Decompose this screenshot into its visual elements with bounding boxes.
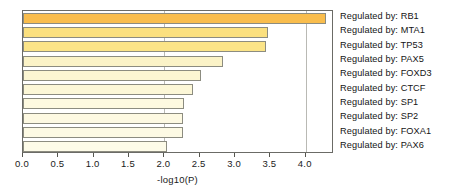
category-label: Regulated by: RB1 xyxy=(340,11,419,22)
category-label: Regulated by: CTCF xyxy=(340,83,426,94)
x-axis-tick xyxy=(93,153,94,157)
bar[interactable] xyxy=(23,141,167,152)
x-axis-tick-label: 3.5 xyxy=(262,158,276,169)
x-axis-tick xyxy=(305,153,306,157)
x-axis-tick xyxy=(128,153,129,157)
x-axis-tick xyxy=(163,153,164,157)
x-axis-tick xyxy=(22,153,23,157)
plot-area xyxy=(22,10,333,153)
bar[interactable] xyxy=(23,127,183,138)
x-axis-tick-label: 1.0 xyxy=(86,158,100,169)
x-axis-tick xyxy=(199,153,200,157)
bars-layer xyxy=(23,11,332,152)
category-label-column: Regulated by: RB1Regulated by: MTA1Regul… xyxy=(340,10,456,153)
bar[interactable] xyxy=(23,70,201,81)
bar-row xyxy=(23,84,334,95)
category-label: Regulated by: PAX5 xyxy=(340,54,424,65)
bar-row xyxy=(23,98,334,109)
bar[interactable] xyxy=(23,98,184,109)
x-axis-title: -log10(P) xyxy=(22,174,333,185)
category-label: Regulated by: TP53 xyxy=(340,40,423,51)
category-label: Regulated by: SP1 xyxy=(340,97,418,108)
x-axis-tick-label: 4.0 xyxy=(298,158,312,169)
bar[interactable] xyxy=(23,56,223,67)
bar-row xyxy=(23,113,334,124)
category-label: Regulated by: SP2 xyxy=(340,111,418,122)
category-label: Regulated by: FOXD3 xyxy=(340,68,432,79)
bar[interactable] xyxy=(23,84,193,95)
bar[interactable] xyxy=(23,13,326,24)
bar-row xyxy=(23,13,334,24)
x-axis-tick xyxy=(234,153,235,157)
x-axis-tick-label: 1.5 xyxy=(121,158,135,169)
bar-row xyxy=(23,127,334,138)
x-axis-tick-label: 3.0 xyxy=(227,158,241,169)
bar-chart: 0.00.51.01.52.02.53.03.54.0 -log10(P) Re… xyxy=(0,0,456,193)
category-label: Regulated by: PAX6 xyxy=(340,140,424,151)
x-axis-tick xyxy=(57,153,58,157)
bar-row xyxy=(23,70,334,81)
bar-row xyxy=(23,56,334,67)
bar[interactable] xyxy=(23,41,266,52)
category-label: Regulated by: FOXA1 xyxy=(340,126,431,137)
bar[interactable] xyxy=(23,113,183,124)
x-axis-tick xyxy=(269,153,270,157)
bar-row xyxy=(23,27,334,38)
x-axis-tick-label: 0.5 xyxy=(50,158,64,169)
bar-row xyxy=(23,141,334,152)
x-axis-tick-label: 2.0 xyxy=(156,158,170,169)
category-label: Regulated by: MTA1 xyxy=(340,25,425,36)
x-axis-tick-label: 2.5 xyxy=(192,158,206,169)
bar[interactable] xyxy=(23,27,268,38)
bar-row xyxy=(23,41,334,52)
x-axis-tick-label: 0.0 xyxy=(15,158,29,169)
